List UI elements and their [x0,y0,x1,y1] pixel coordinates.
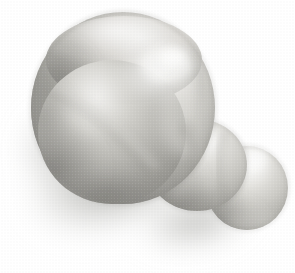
halftone-texture-overlay [0,0,295,273]
image-canvas: Shaded three-dimensional turned form Gra… [0,0,295,273]
shaded-3d-form-illustration [0,0,295,273]
